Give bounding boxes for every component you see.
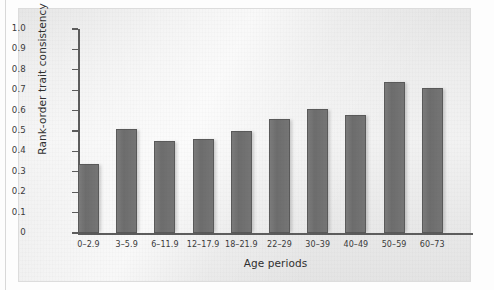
y-axis-tick <box>72 130 78 131</box>
y-axis-tick <box>72 69 78 70</box>
y-axis-tick-label: 0 <box>0 228 26 237</box>
y-axis-tick <box>72 90 78 91</box>
y-axis-tick-label: 0.1 <box>0 208 26 217</box>
bar <box>269 119 290 233</box>
bar <box>116 129 137 233</box>
figure-container: 00.10.20.30.40.50.60.70.80.91.0 0–2.93–5… <box>0 0 494 290</box>
bar <box>193 139 214 233</box>
bar <box>345 115 366 233</box>
bar <box>231 131 252 233</box>
y-axis-tick-label: 0.8 <box>0 65 26 74</box>
x-axis-line <box>78 233 473 235</box>
bar <box>154 141 175 233</box>
bar <box>307 109 328 233</box>
chart-panel: 00.10.20.30.40.50.60.70.80.91.0 0–2.93–5… <box>18 8 471 282</box>
y-axis-tick <box>72 28 78 29</box>
plot-area: 00.10.20.30.40.50.60.70.80.91.0 0–2.93–5… <box>19 9 472 283</box>
y-axis-tick-label: 0.3 <box>0 167 26 176</box>
y-axis-tick <box>72 151 78 152</box>
y-axis-tick <box>72 110 78 111</box>
y-axis-tick-label: 0.9 <box>0 44 26 53</box>
y-axis-tick-label: 1.0 <box>0 24 26 33</box>
y-axis-tick-label: 0.6 <box>0 106 26 115</box>
x-axis-tick-label: 60–73 <box>407 240 457 249</box>
y-axis-tick-label: 0.7 <box>0 85 26 94</box>
x-axis-title: Age periods <box>78 257 473 269</box>
y-axis-tick-label: 0.4 <box>0 146 26 155</box>
bar <box>422 88 443 233</box>
bar <box>384 82 405 233</box>
y-axis-tick-label: 0.5 <box>0 126 26 135</box>
y-axis-title: Rank-order trait consistency <box>36 0 48 164</box>
y-axis-tick-label: 0.2 <box>0 187 26 196</box>
y-axis-tick <box>72 49 78 50</box>
bar <box>78 164 99 233</box>
